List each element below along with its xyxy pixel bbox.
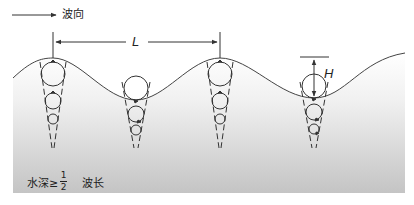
depth-condition-prefix: 水深≥ xyxy=(27,178,58,189)
fraction-numerator: 1 xyxy=(61,171,67,180)
wavelength-label: L xyxy=(132,35,139,48)
fraction-denominator: 2 xyxy=(61,183,67,192)
wave-height-label: H xyxy=(324,67,333,80)
depth-condition-suffix: 波长 xyxy=(82,178,104,189)
wave-direction-label: 波向 xyxy=(62,9,84,20)
depth-condition-fraction: 1 2 xyxy=(60,171,67,192)
